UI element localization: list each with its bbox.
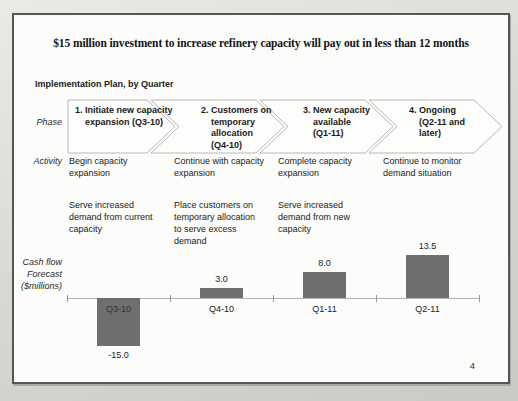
scanned-slide-page: { "slide": { "title": "$15 million inves… <box>0 0 518 401</box>
slide: $15 million investment to increase refin… <box>12 13 510 384</box>
phase-1-label: 1. Initiate new capacity expansion (Q3-1… <box>75 105 179 128</box>
bar-category-label: Q1-11 <box>273 304 376 315</box>
cashflow-label-line1: Cash flow <box>14 256 62 268</box>
bar-group: 13.5 Q2-11 <box>376 220 479 370</box>
bar-category-label: Q3-10 <box>67 304 170 315</box>
cashflow-label-line2: Forecast <box>14 268 62 280</box>
bar-group: -15.0 Q3-10 <box>67 220 170 370</box>
activity-1-primary: Begin capacity expansion <box>69 155 171 179</box>
activity-4-primary: Continue to monitor demand situation <box>383 155 485 179</box>
activity-row-label: Activity <box>14 155 62 167</box>
bar-group: 8.0 Q1-11 <box>273 220 376 370</box>
activity-2-primary: Continue with capacity expansion <box>174 155 276 179</box>
cashflow-label-line3: ($millions) <box>14 280 62 292</box>
bar-value-label: 3.0 <box>170 274 273 285</box>
bar-category-label: Q4-10 <box>170 304 273 315</box>
axis-tick <box>479 295 480 302</box>
phase-4-label: 4. Ongoing (Q2-11 and later) <box>409 105 489 140</box>
bar-value-label: 13.5 <box>376 241 479 252</box>
phase-row-label: Phase <box>14 116 62 128</box>
slide-title: $15 million investment to increase refin… <box>14 37 508 49</box>
slide-subtitle: Implementation Plan, by Quarter <box>35 79 174 89</box>
phase-2-label: 2. Customers on temporary allocation (Q4… <box>201 105 283 151</box>
cashflow-row-label: Cash flow Forecast ($millions) <box>14 256 62 292</box>
bar-value-label: -15.0 <box>67 350 170 361</box>
bar-value-label: 8.0 <box>273 258 376 269</box>
page-number: 4 <box>470 360 475 371</box>
bar-group: 3.0 Q4-10 <box>170 220 273 370</box>
bar <box>200 288 243 298</box>
bar <box>406 255 449 298</box>
phase-arrow-band: 1. Initiate new capacity expansion (Q3-1… <box>67 99 503 154</box>
phase-3-label: 3. New capacity available (Q1-11) <box>303 105 385 140</box>
bar <box>303 272 346 298</box>
cashflow-bar-chart: -15.0 Q3-10 3.0 Q4-10 8.0 Q1-11 13.5 Q2-… <box>67 220 480 370</box>
bar-category-label: Q2-11 <box>376 304 479 315</box>
activity-3-primary: Complete capacity expansion <box>278 155 380 179</box>
